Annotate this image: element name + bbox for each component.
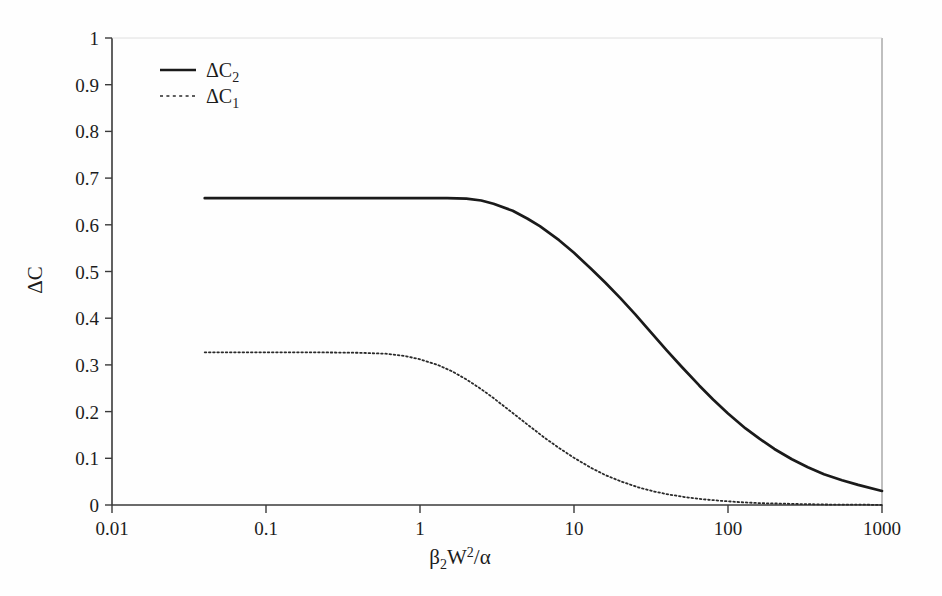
y-axis-tick-label: 0.6 [75,215,99,236]
x-title-beta: β [429,545,440,569]
y-axis-ticks [105,38,112,505]
x-title-alpha: α [480,545,491,569]
plot-frame [112,38,882,505]
y-axis-title-text: ΔC [23,266,47,294]
y-axis-tick-label: 0.5 [75,262,99,283]
legend-2-base: ΔC [206,59,232,81]
y-axis-tick-label: 0.9 [75,75,99,96]
legend-2-subscript: 2 [232,70,239,85]
x-title-w: W [447,545,467,569]
data-series-layer [205,198,882,505]
legend-1-subscript: 1 [232,96,239,111]
y-axis-tick-labels: 00.10.20.30.40.50.60.70.80.91 [75,28,99,516]
y-axis-tick-label: 0.2 [75,402,99,423]
x-axis-title-text: β2W2/α [429,545,490,572]
x-axis-tick-label: 0.01 [95,518,128,539]
x-title-w-superscript: 2 [467,545,474,560]
legend: ΔC2 ΔC1 [160,59,239,111]
legend-label-delta-c2: ΔC2 [206,59,239,85]
y-axis-tick-label: 0.4 [75,308,99,329]
y-axis-tick-label: 1 [90,28,100,49]
legend-label-delta-c1: ΔC1 [206,85,239,111]
series-line-1 [205,198,882,491]
x-axis-title: β2W2/α [429,545,490,572]
x-axis-tick-label: 100 [714,518,743,539]
x-title-beta-subscript: 2 [440,557,447,572]
x-axis-tick-label: 0.1 [254,518,278,539]
y-axis-tick-label: 0.7 [75,168,99,189]
y-axis-title: ΔC [23,266,47,294]
y-axis-tick-label: 0.1 [75,448,99,469]
y-axis-tick-label: 0 [90,495,100,516]
x-axis-tick-label: 1 [415,518,425,539]
line-chart: 00.10.20.30.40.50.60.70.80.91 0.010.1110… [0,0,942,596]
y-axis-tick-label: 0.8 [75,121,99,142]
x-axis-tick-label: 1000 [863,518,901,539]
x-axis-ticks [112,505,882,513]
x-axis-tick-label: 10 [565,518,584,539]
figure-container: 00.10.20.30.40.50.60.70.80.91 0.010.1110… [0,0,942,596]
series-line-2 [205,352,882,505]
legend-1-base: ΔC [206,85,232,107]
x-axis-tick-labels: 0.010.11101001000 [95,518,901,539]
y-axis-tick-label: 0.3 [75,355,99,376]
